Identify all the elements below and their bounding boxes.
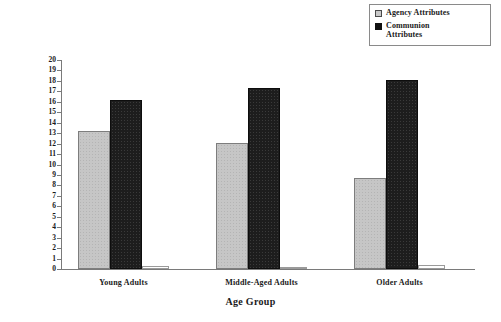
y-axis-tick <box>57 144 61 145</box>
y-axis-tick-label: 12 <box>49 140 57 148</box>
y-axis-tick <box>57 102 61 103</box>
y-axis-tick <box>57 91 61 92</box>
legend-item-agency: Agency Attributes <box>375 8 486 18</box>
y-axis-tick-label: 11 <box>49 150 56 158</box>
y-axis-tick <box>57 248 61 249</box>
y-axis-tick-label: 3 <box>52 234 56 242</box>
y-axis-tick <box>57 133 61 134</box>
bar-agency-2 <box>354 178 386 269</box>
y-axis-tick <box>57 196 61 197</box>
y-axis-tick-label: 8 <box>52 181 56 189</box>
x-axis-line <box>61 269 475 270</box>
legend-label-communion: Communion Attributes <box>386 21 430 40</box>
x-axis-label-1: Middle-Aged Adults <box>225 278 298 287</box>
bar-communion-0 <box>110 100 142 269</box>
bar-agency-0 <box>78 131 110 269</box>
legend-label-agency: Agency Attributes <box>386 8 450 18</box>
y-axis-tick-label: 15 <box>49 108 57 116</box>
x-axis-label-0: Young Adults <box>99 278 147 287</box>
y-axis-tick-label: 0 <box>52 265 56 273</box>
y-axis-tick <box>57 81 61 82</box>
bar-third-1 <box>280 267 307 269</box>
bar-agency-1 <box>216 143 248 269</box>
y-axis-tick-label: 20 <box>49 56 57 64</box>
y-axis-tick-label: 7 <box>52 192 56 200</box>
bar-third-0 <box>142 266 169 269</box>
y-axis-tick-label: 17 <box>49 87 57 95</box>
y-axis-tick-label: 19 <box>49 66 57 74</box>
y-axis-tick <box>57 165 61 166</box>
communion-swatch-icon <box>375 23 382 30</box>
x-axis-label-2: Older Adults <box>376 278 423 287</box>
y-axis-tick <box>57 154 61 155</box>
y-axis-tick <box>57 112 61 113</box>
y-axis-tick-labels: 20191817161514131211109876543210 <box>36 60 56 269</box>
y-axis-tick <box>57 259 61 260</box>
y-axis-line <box>61 60 62 269</box>
bar-third-2 <box>418 265 445 269</box>
y-axis-tick-label: 5 <box>52 213 56 221</box>
y-axis-tick-label: 14 <box>49 119 57 127</box>
x-axis-title: Age Group <box>0 296 501 307</box>
legend-item-communion: Communion Attributes <box>375 21 486 40</box>
y-axis-tick-label: 6 <box>52 202 56 210</box>
y-axis-tick-label: 10 <box>49 161 57 169</box>
y-axis-tick <box>57 175 61 176</box>
y-axis-tick <box>57 60 61 61</box>
y-axis-tick <box>57 269 61 270</box>
chart-legend: Agency Attributes Communion Attributes <box>369 4 491 46</box>
y-axis-tick-label: 13 <box>49 129 57 137</box>
y-axis-tick-label: 1 <box>52 255 56 263</box>
bar-communion-1 <box>248 88 280 269</box>
plot-area <box>61 60 475 269</box>
y-axis-tick-label: 9 <box>52 171 56 179</box>
y-axis-tick-label: 16 <box>49 98 57 106</box>
y-axis-tick <box>57 227 61 228</box>
y-axis-tick <box>57 70 61 71</box>
y-axis-tick <box>57 123 61 124</box>
agency-swatch-icon <box>375 10 382 17</box>
y-axis-tick <box>57 217 61 218</box>
bar-communion-2 <box>386 80 418 269</box>
y-axis-tick <box>57 206 61 207</box>
y-axis-tick-label: 4 <box>52 223 56 231</box>
y-axis-tick-label: 2 <box>52 244 56 252</box>
y-axis-tick <box>57 238 61 239</box>
y-axis-tick <box>57 185 61 186</box>
y-axis-tick-label: 18 <box>49 77 57 85</box>
